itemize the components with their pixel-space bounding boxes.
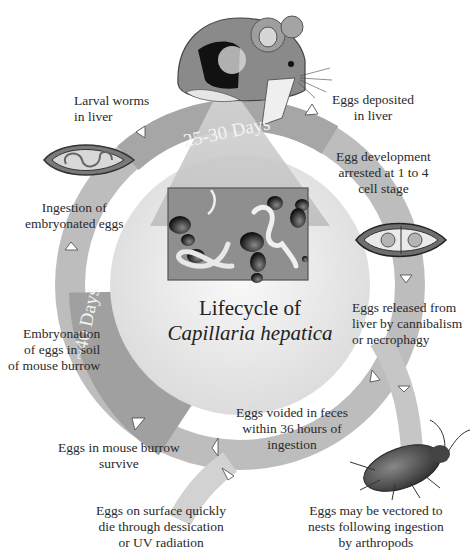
stage-eggs-released: Eggs released fromliver by cannibalismor… <box>352 300 462 348</box>
title-line: Lifecycle of <box>150 296 350 321</box>
stage-eggs-deposited: Eggs depositedin liver <box>332 92 414 124</box>
liver-panel <box>168 188 309 283</box>
arrow-icon <box>305 104 318 115</box>
species-name: Capillaria hepatica <box>150 321 350 346</box>
stage-embryonation: Embryonationof eggs in soilof mouse burr… <box>8 326 100 374</box>
lifecycle-diagram: 25-30 Days ~40 Days <box>0 0 474 558</box>
stage-egg-development-arrested: Egg developmentarrested at 1 to 4cell st… <box>336 149 431 197</box>
two-cell-egg-icon <box>356 224 446 257</box>
stage-eggs-burrow-survive: Eggs in mouse burrowsurvive <box>58 440 180 472</box>
stage-larval-worms: Larval wormsin liver <box>74 93 149 125</box>
diagram-title: Lifecycle of Capillaria hepatica <box>150 296 350 346</box>
stage-ingestion: Ingestion ofembryonated eggs <box>25 200 124 232</box>
stage-eggs-surface: Eggs on surface quicklydie through dessi… <box>96 503 226 551</box>
stage-eggs-voided: Eggs voided in feceswithin 36 hours ofin… <box>236 405 348 453</box>
stage-eggs-vectored: Eggs may be vectored tonests following i… <box>308 503 444 551</box>
